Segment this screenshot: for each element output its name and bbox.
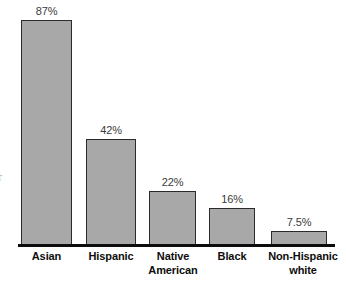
bar-value-label-non-hispanic-white: 7.5% — [287, 216, 312, 228]
bar-group-non-hispanic-white: 7.5% — [271, 0, 327, 247]
bar-value-label-black: 16% — [221, 193, 243, 205]
category-label-black: Black — [201, 250, 263, 264]
bar-rect-hispanic[interactable] — [86, 139, 136, 247]
bar-group-native-american: 22% — [149, 0, 196, 247]
category-label-line1: Black — [218, 250, 247, 262]
x-axis-category-labels: Asian Hispanic Native American Black Non… — [0, 250, 346, 287]
bar-value-label-asian: 87% — [36, 5, 58, 17]
bar-group-asian: 87% — [21, 0, 72, 247]
bar-rect-black[interactable] — [209, 208, 255, 247]
bar-rect-asian[interactable] — [21, 20, 72, 247]
x-axis-baseline — [18, 244, 335, 247]
bar-chart-figure: l T - i : - 87% 42% 22% 16% 7.5% — [0, 0, 346, 287]
category-label-line2: white — [263, 264, 343, 278]
category-label-line1: Hispanic — [88, 250, 133, 262]
category-label-line1: Asian — [32, 250, 61, 262]
bar-group-black: 16% — [209, 0, 255, 247]
category-label-hispanic: Hispanic — [74, 250, 148, 264]
category-label-asian: Asian — [11, 250, 82, 264]
plot-area: 87% 42% 22% 16% 7.5% — [0, 0, 346, 247]
category-label-line2: American — [139, 264, 207, 278]
category-label-non-hispanic-white: Non-Hispanic white — [263, 250, 343, 277]
bar-value-label-native-american: 22% — [162, 176, 184, 188]
bar-group-hispanic: 42% — [86, 0, 136, 247]
category-label-line1: Non-Hispanic — [268, 250, 338, 262]
bar-value-label-hispanic: 42% — [100, 124, 122, 136]
category-label-line1: Native — [157, 250, 189, 262]
category-label-native-american: Native American — [139, 250, 207, 277]
bar-rect-native-american[interactable] — [149, 191, 196, 247]
